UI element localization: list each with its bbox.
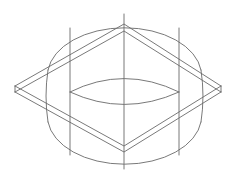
slab-top-face bbox=[15, 24, 221, 86]
lens-upper-arc bbox=[70, 79, 179, 93]
right-silhouette-arc bbox=[201, 70, 203, 122]
slab-top-face-lower bbox=[15, 31, 221, 92]
wireframe-drawing bbox=[0, 0, 244, 181]
drawing-svg bbox=[0, 0, 244, 181]
bottom-ellipse-front-arc bbox=[48, 122, 201, 164]
lens-lower-arc bbox=[70, 92, 179, 105]
left-silhouette-arc bbox=[46, 70, 48, 122]
top-ellipse-back-arc bbox=[48, 28, 201, 70]
